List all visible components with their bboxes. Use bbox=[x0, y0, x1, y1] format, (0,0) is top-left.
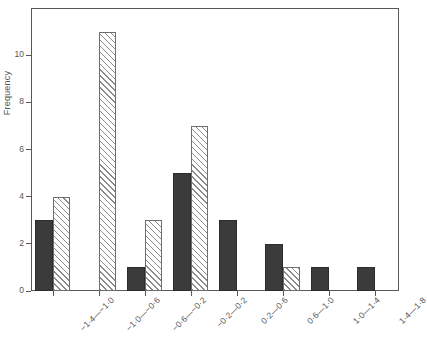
bar-hatched bbox=[283, 267, 301, 291]
bar-solid bbox=[219, 220, 237, 291]
y-axis-title: Frequency bbox=[2, 53, 12, 133]
y-tick-label: 0 bbox=[19, 285, 24, 296]
x-tick-label: −0·6—−0·2 bbox=[169, 295, 207, 333]
x-tick-mark bbox=[145, 291, 146, 296]
x-axis-baseline bbox=[31, 290, 399, 291]
x-tick-label: −0·2—0·2 bbox=[214, 295, 249, 330]
x-tick-label: 0·2—0·6 bbox=[259, 295, 290, 326]
y-tick-label: 6 bbox=[19, 144, 24, 155]
bar-hatched bbox=[191, 126, 209, 291]
y-tick-label: 4 bbox=[19, 191, 24, 202]
bar-solid bbox=[127, 267, 145, 291]
bar-hatched bbox=[53, 197, 71, 291]
plot-area bbox=[31, 8, 399, 291]
x-tick-mark bbox=[237, 291, 238, 296]
bar-solid bbox=[311, 267, 329, 291]
bar-solid bbox=[35, 220, 53, 291]
x-tick-label: 1·0—1·4 bbox=[351, 295, 382, 326]
y-tick-label: 10 bbox=[15, 49, 24, 60]
bar-solid bbox=[173, 173, 191, 291]
x-tick-label: −1·4—−1·0 bbox=[77, 295, 115, 333]
x-tick-mark bbox=[99, 291, 100, 296]
y-tick-label: 2 bbox=[19, 238, 24, 249]
bar-solid bbox=[265, 244, 283, 291]
bar-hatched bbox=[99, 32, 117, 291]
bar-solid bbox=[357, 267, 375, 291]
x-tick-mark bbox=[53, 291, 54, 296]
x-tick-label: −1·0—−0·6 bbox=[123, 295, 161, 333]
x-tick-label: 1·4—1·8 bbox=[397, 295, 427, 326]
y-tick-label: 8 bbox=[19, 96, 24, 107]
bar-hatched bbox=[145, 220, 163, 291]
x-tick-label: 0·6—1·0 bbox=[305, 295, 336, 326]
x-tick-mark bbox=[191, 291, 192, 296]
